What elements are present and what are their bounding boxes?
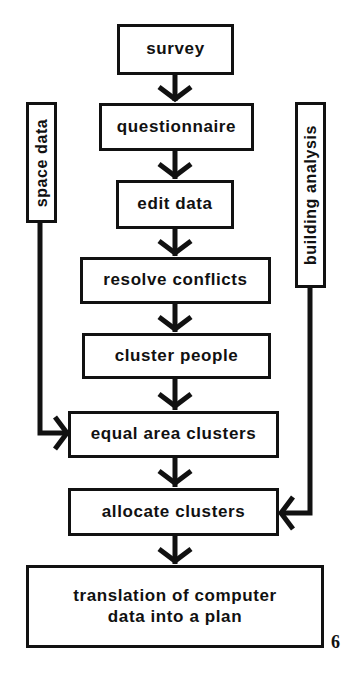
step-label-line1: translation of computer <box>73 586 277 606</box>
step-label: resolve conflicts <box>103 270 247 290</box>
input-building-analysis: building analysis <box>295 102 326 288</box>
step-equal-area-clusters: equal area clusters <box>68 411 279 458</box>
input-label: space data <box>33 118 51 207</box>
step-resolve-conflicts: resolve conflicts <box>80 257 271 304</box>
step-label: equal area clusters <box>91 424 256 444</box>
connector-space-data <box>40 222 68 433</box>
step-translation: translation of computer data into a plan <box>26 565 324 648</box>
input-label: building analysis <box>302 125 320 265</box>
step-cluster-people: cluster people <box>82 333 271 379</box>
step-label: allocate clusters <box>102 502 245 522</box>
step-label: survey <box>146 39 204 59</box>
step-survey: survey <box>117 24 234 75</box>
step-label: questionnaire <box>117 117 236 137</box>
step-allocate-clusters: allocate clusters <box>68 488 279 536</box>
connector-building-analysis <box>280 287 310 513</box>
figure-number: 6 <box>331 632 340 653</box>
step-label-line2: data into a plan <box>108 607 242 627</box>
step-questionnaire: questionnaire <box>99 103 254 151</box>
input-space-data: space data <box>26 102 57 223</box>
step-label: edit data <box>137 194 212 214</box>
step-label: cluster people <box>115 346 239 366</box>
step-edit-data: edit data <box>116 180 234 229</box>
